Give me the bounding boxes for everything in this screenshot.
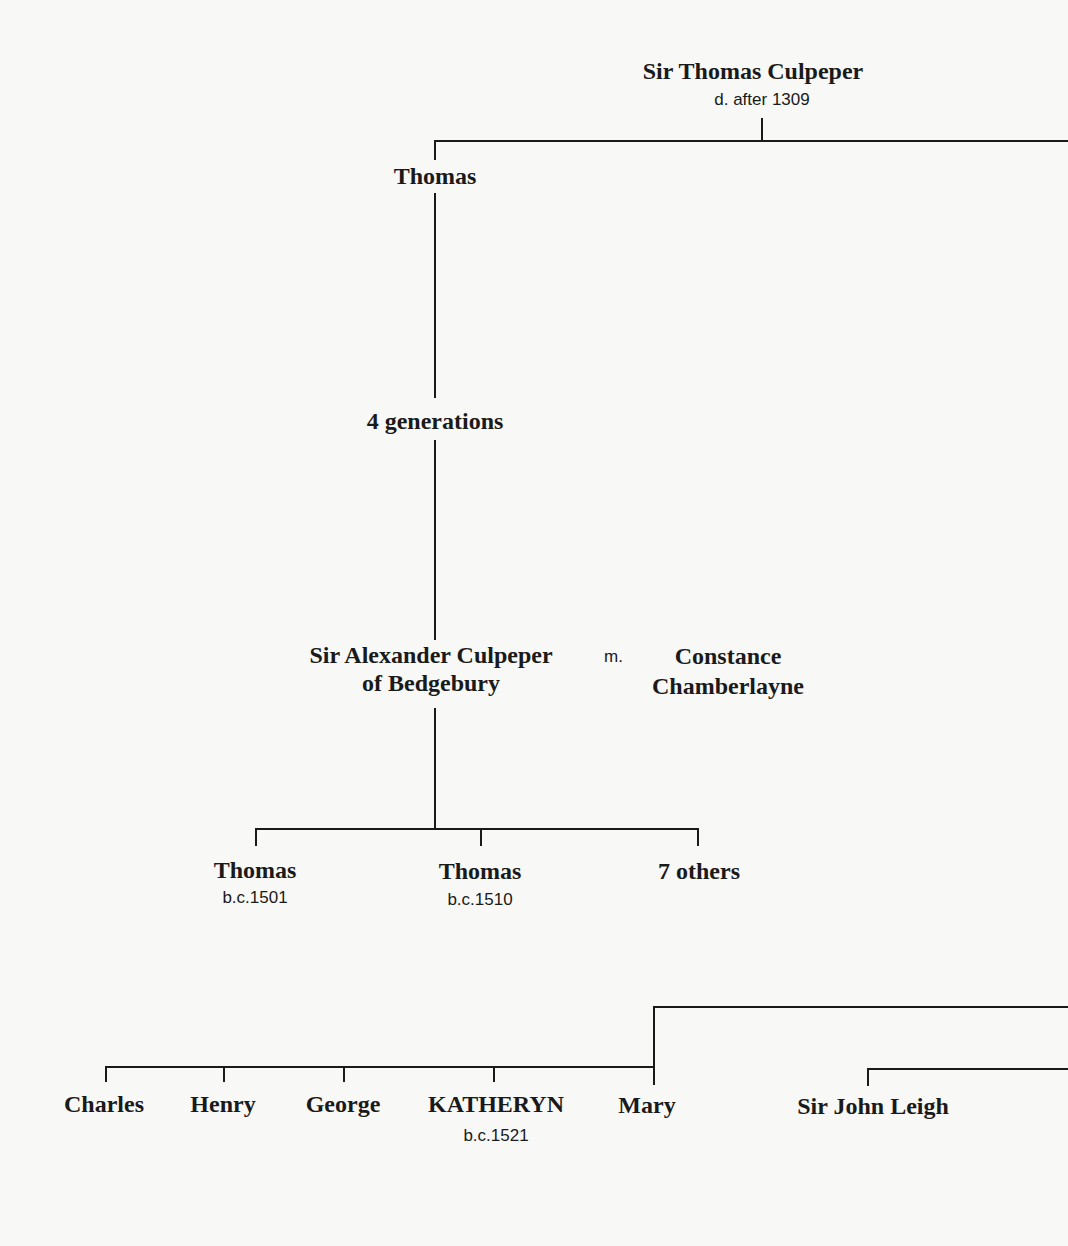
connector-line [434, 140, 436, 160]
person-thomas-1510: Thomas [439, 857, 522, 885]
connector-line [653, 1006, 1068, 1008]
person-thomas-1501: Thomas [214, 856, 297, 884]
connector-line [343, 1066, 345, 1082]
connector-line [105, 1066, 107, 1082]
person-constance-chamberlayne: Constance [675, 642, 782, 670]
person-note: b.c.1510 [447, 890, 512, 910]
person-sir-john-leigh: Sir John Leigh [797, 1092, 949, 1120]
person-constance-chamberlayne-line2: Chamberlayne [652, 672, 804, 700]
person-thomas: Thomas [394, 162, 477, 190]
connector-line [493, 1066, 495, 1082]
person-7-others: 7 others [658, 857, 740, 885]
person-charles: Charles [64, 1090, 144, 1118]
connector-line [434, 140, 1068, 142]
person-sir-thomas-culpeper: Sir Thomas Culpeper [643, 57, 864, 85]
person-note: b.c.1521 [463, 1126, 528, 1146]
generation-gap-label: 4 generations [367, 407, 504, 435]
connector-line [480, 828, 482, 846]
connector-line [867, 1068, 1068, 1070]
connector-line [223, 1066, 225, 1082]
marriage-marker: m. [604, 647, 623, 667]
connector-line [255, 828, 699, 830]
family-tree: Sir Thomas Culpeper d. after 1309 Thomas… [0, 0, 1068, 1246]
connector-line [697, 828, 699, 846]
connector-line [867, 1068, 869, 1086]
person-sir-alexander-culpeper-line2: of Bedgebury [362, 669, 500, 697]
connector-line [653, 1006, 655, 1085]
person-note: b.c.1501 [222, 888, 287, 908]
connector-line [105, 1066, 655, 1068]
connector-line [255, 828, 257, 846]
person-katheryn: KATHERYN [428, 1090, 564, 1118]
person-henry: Henry [190, 1090, 255, 1118]
person-mary: Mary [618, 1091, 675, 1119]
connector-line [434, 193, 436, 398]
connector-line [434, 440, 436, 640]
connector-line [761, 118, 763, 142]
person-george: George [306, 1090, 381, 1118]
person-sir-alexander-culpeper: Sir Alexander Culpeper [309, 641, 552, 669]
person-note: d. after 1309 [714, 90, 809, 110]
connector-line [434, 708, 436, 830]
